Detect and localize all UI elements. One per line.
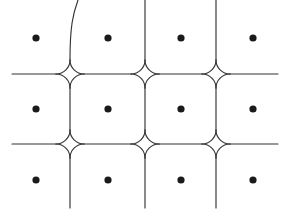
lattice-dot — [104, 176, 111, 183]
lattice-canvas — [0, 0, 289, 214]
lattice-dot — [104, 105, 111, 112]
lattice-dot — [249, 34, 256, 41]
lattice-dot — [104, 34, 111, 41]
lattice-dot — [32, 34, 39, 41]
lattice-dot — [249, 176, 256, 183]
lattice-dot — [177, 34, 184, 41]
lattice-dot — [177, 105, 184, 112]
lattice-dot — [32, 105, 39, 112]
lattice-dot — [177, 176, 184, 183]
lattice-dot — [32, 176, 39, 183]
lattice-figure — [0, 0, 289, 214]
lattice-dot — [249, 105, 256, 112]
